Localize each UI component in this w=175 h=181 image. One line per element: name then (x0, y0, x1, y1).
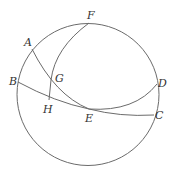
great-circle (17, 24, 159, 166)
label-d: D (157, 77, 167, 90)
spherical-diagram: A B C D E F G H (0, 0, 175, 181)
label-c: C (155, 109, 164, 122)
arc-bd (18, 82, 157, 109)
label-a: A (23, 36, 32, 49)
label-f: F (86, 9, 95, 22)
label-b: B (8, 75, 17, 88)
arc-fh (49, 23, 89, 100)
label-g: G (55, 72, 64, 85)
label-h: H (42, 103, 53, 116)
label-e: E (84, 112, 93, 125)
